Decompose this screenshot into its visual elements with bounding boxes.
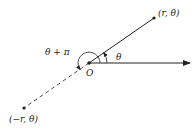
label-origin: O [86,68,94,78]
label-point-negative: (−r, θ) [9,114,39,124]
point-positive [152,16,155,19]
angle-theta-arc [104,53,107,63]
label-theta: θ [116,52,122,62]
angle-theta-plus-pi-arc [78,52,100,69]
polar-diagram: (r, θ) (−r, θ) O θ θ + π [0,0,195,134]
ray-negative-dashed [24,63,89,108]
origin-point [87,61,91,65]
label-theta-plus-pi: θ + π [45,47,71,57]
ray-positive [89,18,154,63]
point-negative [22,106,25,109]
label-point-positive: (r, θ) [158,8,180,18]
